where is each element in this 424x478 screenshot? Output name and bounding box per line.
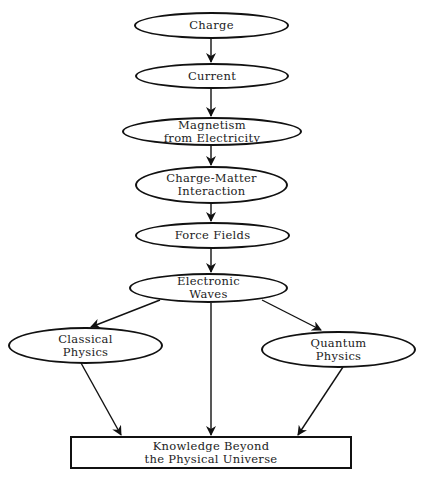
node-magnetism-from-electricity: Magnetism from Electricity (122, 117, 302, 146)
node-classical-label-line2: Physics (63, 346, 109, 359)
top-caption-cut-off (130, 0, 300, 4)
node-magnetism-label-line1: Magnetism (178, 119, 246, 132)
node-charge: Charge (134, 12, 289, 39)
arrow-quantum-to-knowledge (298, 367, 343, 435)
node-charge-matter-interaction: Charge-Matter Interaction (135, 166, 288, 204)
arrow-classical-to-knowledge (81, 363, 121, 435)
node-quantum-label-line1: Quantum (310, 337, 366, 350)
node-classical-physics: Classical Physics (8, 327, 163, 364)
node-knowledge-label-line1: Knowledge Beyond (153, 440, 270, 453)
node-knowledge-label-line2: the Physical Universe (145, 453, 278, 466)
node-charge-label: Charge (189, 19, 234, 32)
node-classical-label-line1: Classical (58, 333, 113, 346)
node-current-label: Current (188, 70, 236, 83)
node-electronic-waves-label-line2: Waves (189, 288, 227, 301)
node-force-fields: Force Fields (135, 222, 290, 249)
node-knowledge-beyond-physical-universe: Knowledge Beyond the Physical Universe (70, 436, 352, 469)
node-quantum-physics: Quantum Physics (261, 331, 416, 368)
arrow-waves-to-classical (91, 300, 160, 327)
node-magnetism-label-line2: from Electricity (164, 132, 260, 145)
flow-diagram: Charge Current Magnetism from Electricit… (0, 0, 424, 478)
node-force-fields-label: Force Fields (175, 229, 251, 242)
arrow-waves-to-quantum (262, 300, 321, 330)
node-electronic-waves: Electronic Waves (129, 273, 288, 303)
node-current: Current (135, 63, 289, 89)
node-quantum-label-line2: Physics (316, 350, 362, 363)
node-charge-matter-label-line2: Interaction (177, 185, 245, 198)
